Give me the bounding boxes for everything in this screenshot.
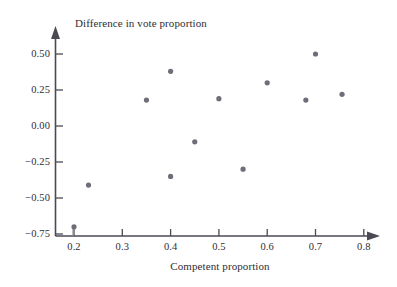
y-tick-label: −0.75 [0,229,50,240]
x-axis-title: Competent proportion [140,261,300,272]
y-tick-label: 0.00 [0,121,50,132]
x-tick-label: 0.8 [344,242,384,253]
x-tick-label: 0.4 [151,242,191,253]
y-axis-ticks [56,54,63,234]
data-point [86,182,91,187]
data-points-layer [71,51,344,229]
y-axis-title: Difference in vote proportion [75,18,207,29]
data-point [265,80,270,85]
scatter-plot-figure: 0.500.250.00−0.25−0.50−0.75 0.20.30.40.5… [0,0,397,287]
y-axis-arrowhead [51,26,60,39]
y-tick-label: 0.50 [0,49,50,60]
x-axis-ticks [74,229,364,236]
data-point [144,97,149,102]
data-point [71,224,76,229]
x-axis-arrowhead [367,232,380,241]
y-tick-label: 0.25 [0,85,50,96]
y-tick-label: −0.25 [0,157,50,168]
y-tick-label: −0.50 [0,193,50,204]
x-tick-label: 0.2 [54,242,94,253]
data-point [168,69,173,74]
x-tick-label: 0.7 [296,242,336,253]
data-point [313,51,318,56]
data-point [303,97,308,102]
data-point [192,139,197,144]
x-tick-label: 0.6 [247,242,287,253]
x-tick-label: 0.5 [199,242,239,253]
data-point [240,167,245,172]
x-tick-label: 0.3 [102,242,142,253]
data-point [339,92,344,97]
data-point [168,174,173,179]
data-point [216,96,221,101]
